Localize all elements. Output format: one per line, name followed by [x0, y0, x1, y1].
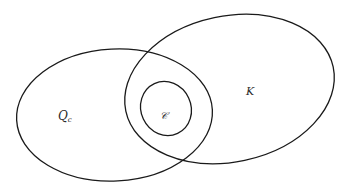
label-set-c: 𝒞	[160, 111, 167, 121]
venn-diagram: Qc K 𝒞	[0, 0, 352, 192]
ellipse-set-c	[132, 73, 201, 144]
label-qc-subscript: c	[68, 116, 72, 124]
label-qc-main: Q	[58, 109, 68, 123]
label-set-qc: Qc	[58, 110, 72, 124]
label-set-k: K	[246, 86, 254, 97]
diagram-svg	[0, 0, 352, 192]
ellipse-set-k	[111, 0, 349, 182]
ellipse-set-qc	[13, 44, 216, 186]
